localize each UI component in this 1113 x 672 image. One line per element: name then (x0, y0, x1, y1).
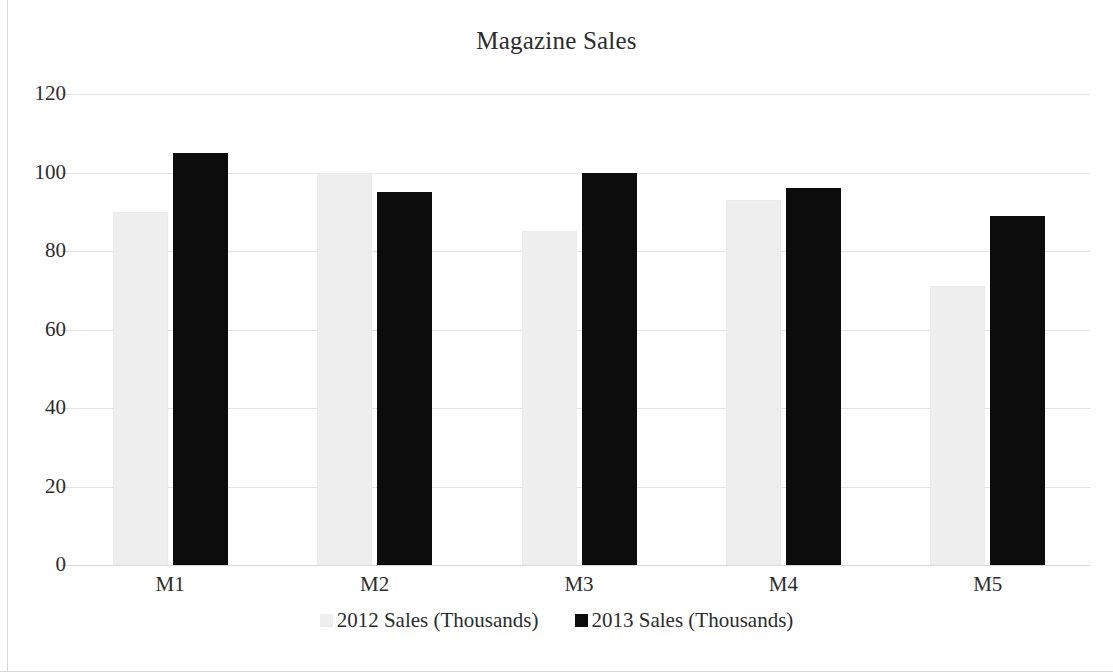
bar-m5-2013[interactable] (990, 216, 1045, 565)
bar-group (113, 94, 228, 565)
x-axis-label-m1: M1 (68, 572, 272, 596)
bar-m2-2013[interactable] (377, 192, 432, 565)
bar-m2-2012[interactable] (317, 173, 372, 566)
x-axis-labels-group: M1M2M3M4M5 (68, 572, 1090, 602)
x-axis-label-m5: M5 (886, 572, 1090, 596)
y-axis-tick-label: 60 (6, 319, 66, 340)
bar-m3-2013[interactable] (582, 173, 637, 566)
bar-group (522, 94, 637, 565)
bar-m1-2012[interactable] (113, 212, 168, 565)
legend-swatch-icon (320, 614, 333, 627)
y-axis-tick-label: 80 (6, 240, 66, 261)
bar-m1-2013[interactable] (173, 153, 228, 565)
legend-label: 2013 Sales (Thousands) (592, 608, 794, 632)
x-axis-label-m3: M3 (477, 572, 681, 596)
y-axis-tick-label: 40 (6, 397, 66, 418)
x-axis-label-m4: M4 (681, 572, 885, 596)
y-axis-tick-label: 20 (6, 476, 66, 497)
bar-m3-2012[interactable] (522, 231, 577, 565)
legend-item-2013[interactable]: 2013 Sales (Thousands) (575, 608, 794, 632)
legend-swatch-icon (575, 614, 588, 627)
bar-group (726, 94, 841, 565)
x-axis-label-m2: M2 (272, 572, 476, 596)
bar-group (930, 94, 1045, 565)
plot-area: 020406080100120 (68, 94, 1090, 565)
chart-legend: 2012 Sales (Thousands)2013 Sales (Thousa… (0, 608, 1113, 632)
legend-label: 2012 Sales (Thousands) (337, 608, 539, 632)
chart-container: Magazine Sales 020406080100120 M1M2M3M4M… (0, 0, 1113, 672)
y-axis-tick-label: 0 (6, 554, 66, 575)
y-axis-tick-label: 100 (6, 162, 66, 183)
chart-title: Magazine Sales (0, 26, 1113, 56)
legend-item-2012[interactable]: 2012 Sales (Thousands) (320, 608, 539, 632)
bar-m4-2012[interactable] (726, 200, 781, 565)
y-axis-tick-label: 120 (6, 83, 66, 104)
bar-m4-2013[interactable] (786, 188, 841, 565)
bar-m5-2012[interactable] (930, 286, 985, 565)
bar-group (317, 94, 432, 565)
gridline (68, 565, 1090, 566)
